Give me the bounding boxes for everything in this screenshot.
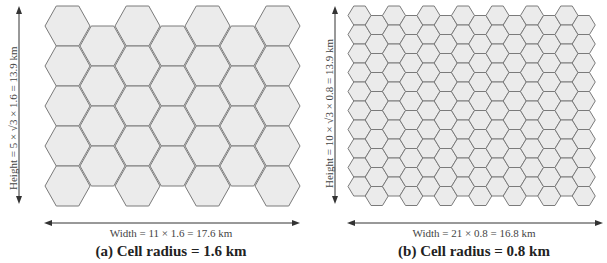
height-dimension-label: Height = 10 × √3 × 0.8 = 13.9 km <box>323 39 335 188</box>
panel-b-small-cells: Height = 10 × √3 × 0.8 = 13.9 km Width =… <box>303 0 607 263</box>
hex-cell <box>572 111 595 130</box>
hex-cell <box>572 54 595 73</box>
width-arrow <box>347 220 603 226</box>
hex-cell <box>572 130 595 149</box>
hex-grid-large-cells <box>0 0 303 263</box>
hex-cell <box>572 149 595 168</box>
hex-cell <box>572 35 595 54</box>
width-dimension-label: Width = 21 × 0.8 = 16.8 km <box>348 227 600 239</box>
height-dimension-label: Height = 5 × √3 × 1.6 = 13.9 km <box>7 46 19 190</box>
hex-cell <box>572 92 595 111</box>
hex-cell <box>572 16 595 35</box>
caption-b: (b) Cell radius = 0.8 km <box>348 243 600 260</box>
hex-grid-small-cells <box>303 0 607 263</box>
width-dimension-label: Width = 11 × 1.6 = 17.6 km <box>45 227 297 239</box>
hex-cell <box>572 73 595 92</box>
panel-a-large-cells: Height = 5 × √3 × 1.6 = 13.9 km Width = … <box>0 0 303 263</box>
hex-cell <box>572 187 595 206</box>
caption-a: (a) Cell radius = 1.6 km <box>45 243 297 260</box>
hex-cell <box>572 168 595 187</box>
width-arrow <box>44 220 300 226</box>
